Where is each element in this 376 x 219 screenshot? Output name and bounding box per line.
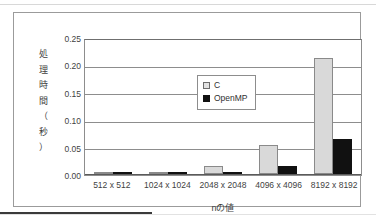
legend-item-openmp[interactable]: OpenMP — [203, 92, 248, 105]
chart-legend: C OpenMP — [197, 75, 256, 110]
legend-label-openmp: OpenMP — [214, 92, 248, 105]
y-tick-label-0.25: 0.25 — [64, 34, 81, 44]
y-axis-tick-labels: 0.25 0.20 0.15 0.10 0.05 0.00 — [50, 33, 81, 180]
bar-c-8192x8192[interactable] — [314, 58, 333, 174]
y-tick-label-0.20: 0.20 — [64, 61, 81, 71]
y-axis-title-char-3: 間 — [39, 96, 48, 106]
bar-openmp-1024x1024[interactable] — [168, 172, 187, 174]
y-axis-title-char-1: 理 — [39, 65, 48, 75]
x-tick-label-512x512: 512 x 512 — [84, 180, 140, 190]
y-axis-title-char-2: 時 — [39, 80, 48, 90]
bar-c-4096x4096[interactable] — [259, 145, 278, 174]
y-tick-label-0.10: 0.10 — [64, 116, 81, 126]
bar-openmp-4096x4096[interactable] — [278, 166, 297, 174]
x-axis-baseline — [85, 174, 361, 175]
legend-swatch-openmp-icon — [203, 95, 210, 102]
bar-group-8192x8192 — [306, 40, 361, 174]
bar-group-512x512 — [85, 40, 140, 174]
y-tick-label-0.15: 0.15 — [64, 89, 81, 99]
bottom-light-rule — [0, 214, 376, 215]
bar-group-1024x1024 — [140, 40, 195, 174]
bar-c-2048x2048[interactable] — [204, 166, 223, 174]
y-tick-label-0.05: 0.05 — [64, 144, 81, 154]
bar-openmp-512x512[interactable] — [113, 172, 132, 174]
plot-area: C OpenMP — [84, 39, 362, 176]
x-tick-label-1024x1024: 1024 x 1024 — [140, 180, 196, 190]
y-tick-label-0.00: 0.00 — [64, 171, 81, 181]
bar-group-4096x4096 — [251, 40, 306, 174]
legend-item-c[interactable]: C — [203, 79, 248, 92]
bar-c-512x512[interactable] — [94, 172, 113, 174]
chart-panel: 処 理 時 間 （ 秒 ） 0.25 0.20 0.15 0.10 0.05 0… — [13, 12, 361, 207]
legend-label-c: C — [214, 79, 220, 92]
y-axis-title-char-4: （ — [39, 111, 48, 121]
y-axis-title-char-6: ） — [39, 142, 48, 152]
x-axis-tick-labels: 512 x 512 1024 x 1024 2048 x 2048 4096 x… — [84, 180, 362, 190]
top-divider-rule — [0, 4, 376, 5]
y-axis-title: 処 理 時 間 （ 秒 ） — [36, 47, 50, 156]
bar-openmp-8192x8192[interactable] — [333, 139, 352, 174]
legend-swatch-c-icon — [203, 82, 210, 89]
bar-openmp-2048x2048[interactable] — [223, 172, 242, 175]
bar-c-1024x1024[interactable] — [149, 172, 168, 174]
x-tick-label-4096x4096: 4096 x 4096 — [251, 180, 307, 190]
y-axis-title-char-0: 処 — [39, 49, 48, 59]
y-axis-title-char-5: 秒 — [39, 127, 48, 137]
x-tick-label-8192x8192: 8192 x 8192 — [306, 180, 362, 190]
x-tick-label-2048x2048: 2048 x 2048 — [195, 180, 251, 190]
